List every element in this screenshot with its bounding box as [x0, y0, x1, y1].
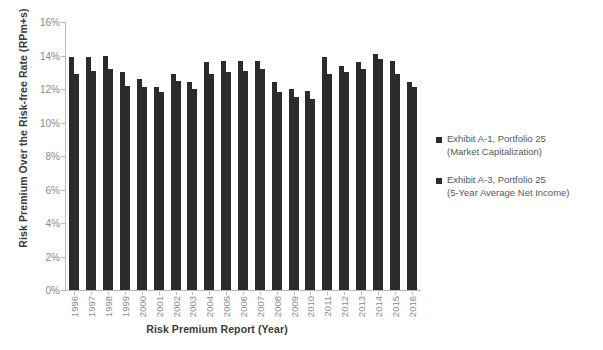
x-tick-mark [176, 292, 177, 295]
bar-series-2-2010 [310, 99, 315, 290]
x-tick-mark [125, 292, 126, 295]
bar-group [83, 22, 100, 290]
x-tick-mark [395, 292, 396, 295]
y-tick-label: 6% [30, 184, 60, 195]
bar-group [201, 22, 218, 290]
x-tick-mark [142, 292, 143, 295]
x-tick-mark [192, 292, 193, 295]
bar-series-2-2013 [361, 69, 366, 290]
x-tick: 1999 [117, 292, 134, 324]
x-tick: 2002 [167, 292, 184, 324]
bar-series-2-2009 [294, 97, 299, 290]
x-tick-label: 2008 [271, 296, 282, 317]
bar-series-2-2012 [344, 72, 349, 290]
legend-swatch-icon [436, 178, 442, 184]
bar-group [403, 22, 420, 290]
bar-series-2-2000 [142, 87, 147, 290]
x-tick: 2004 [201, 292, 218, 324]
bar-group [268, 22, 285, 290]
x-tick-mark [344, 292, 345, 295]
x-tick: 2008 [268, 292, 285, 324]
bar-group [353, 22, 370, 290]
bar-group [184, 22, 201, 290]
y-tick-mark [61, 89, 65, 90]
x-tick: 2001 [150, 292, 167, 324]
x-tick-label: 2009 [288, 296, 299, 317]
legend-label-secondary: (Market Capitalization) [447, 146, 602, 159]
x-tick-mark [378, 292, 379, 295]
bar-group [369, 22, 386, 290]
legend-item-1[interactable]: Exhibit A-1, Portfolio 25(Market Capital… [436, 133, 602, 158]
x-tick-label: 2014 [372, 296, 383, 317]
bar-series-2-2011 [327, 74, 332, 290]
bar-series-2-2006 [243, 71, 248, 290]
x-tick: 1998 [100, 292, 117, 324]
bar-series-2-1996 [74, 74, 79, 290]
legend-label-primary: Exhibit A-1, Portfolio 25 [447, 133, 602, 146]
bar-series-2-2004 [209, 74, 214, 290]
bar-group [235, 22, 252, 290]
y-tick-label: 12% [30, 84, 60, 95]
x-tick-mark [226, 292, 227, 295]
bar-series-2-1998 [108, 69, 113, 290]
y-tick-label: 0% [30, 285, 60, 296]
x-tick-mark [74, 292, 75, 295]
x-tick-label: 2006 [238, 296, 249, 317]
x-tick-label: 1996 [69, 296, 80, 317]
y-tick-label: 2% [30, 251, 60, 262]
x-tick: 1997 [83, 292, 100, 324]
x-tick: 2005 [218, 292, 235, 324]
x-tick-label: 2001 [153, 296, 164, 317]
x-tick-mark [361, 292, 362, 295]
x-tick-mark [310, 292, 311, 295]
bar-series-2-2007 [260, 69, 265, 290]
bar-series-2-1997 [91, 71, 96, 290]
x-tick: 2016 [403, 292, 420, 324]
bar-group [285, 22, 302, 290]
x-tick-label: 2016 [406, 296, 417, 317]
y-tick-label: 16% [30, 17, 60, 28]
x-tick: 2013 [353, 292, 370, 324]
y-tick-label: 10% [30, 117, 60, 128]
y-tick-label: 8% [30, 151, 60, 162]
x-tick-label: 2010 [305, 296, 316, 317]
y-tick-mark [61, 22, 65, 23]
x-tick-label: 1999 [120, 296, 131, 317]
legend-item-2[interactable]: Exhibit A-3, Portfolio 25(5-Year Average… [436, 174, 602, 199]
y-tick-mark [61, 56, 65, 57]
x-tick-mark [159, 292, 160, 295]
bar-group [302, 22, 319, 290]
x-axis-ticks: 1996199719981999200020012002200320042005… [66, 292, 420, 324]
x-tick-label: 2005 [221, 296, 232, 317]
bar-series-2-2003 [192, 89, 197, 290]
bar-group [218, 22, 235, 290]
bar-series-2-2016 [412, 87, 417, 290]
x-tick: 2007 [251, 292, 268, 324]
x-tick-mark [209, 292, 210, 295]
bar-group [66, 22, 83, 290]
bar-group [251, 22, 268, 290]
x-tick-label: 2004 [204, 296, 215, 317]
bar-series-2-2001 [159, 92, 164, 290]
x-tick: 2006 [235, 292, 252, 324]
y-tick-mark [61, 123, 65, 124]
x-tick: 2015 [386, 292, 403, 324]
y-tick-label: 14% [30, 50, 60, 61]
x-tick-mark [260, 292, 261, 295]
bar-group [117, 22, 134, 290]
bar-group [100, 22, 117, 290]
x-tick-label: 2011 [322, 296, 333, 316]
x-tick-mark [108, 292, 109, 295]
bar-group [133, 22, 150, 290]
x-tick-mark [327, 292, 328, 295]
y-tick-label: 4% [30, 218, 60, 229]
x-tick-label: 2003 [187, 296, 198, 317]
bar-group [150, 22, 167, 290]
x-tick: 2011 [319, 292, 336, 324]
x-tick-label: 1997 [86, 296, 97, 317]
x-tick-mark [243, 292, 244, 295]
bar-group [167, 22, 184, 290]
x-tick: 2010 [302, 292, 319, 324]
x-tick: 2014 [369, 292, 386, 324]
bar-group [319, 22, 336, 290]
